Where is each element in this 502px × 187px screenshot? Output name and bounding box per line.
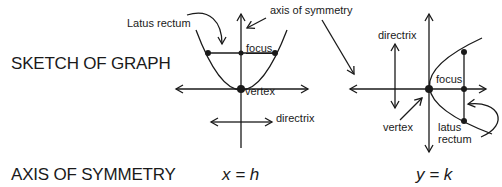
latus-rectum-pointer-arrow [468, 104, 498, 137]
latus-rectum-left-point [205, 50, 211, 56]
vertex-pointer-arrow [400, 98, 422, 120]
vertical-axis-equation: x = h [222, 165, 259, 185]
vertical-parabola-graph [176, 13, 354, 148]
parabola-curve [429, 38, 492, 134]
directrix-label: directrix [378, 29, 417, 41]
directrix-label: directrix [276, 112, 315, 124]
vertex-label: vertex [245, 85, 275, 97]
focus-label: focus [246, 42, 272, 54]
vertex-point [237, 85, 245, 93]
axis-of-symmetry-row-label: AXIS OF SYMMETRY [11, 165, 176, 185]
latus-rectum-label-line1: latus [438, 121, 461, 133]
latus-rectum-pointer-arrow [187, 13, 222, 44]
sketch-of-graph-label: SKETCH OF GRAPH [11, 54, 170, 74]
latus-rectum-label: Latus rectum [127, 17, 191, 29]
latus-rectum-label-line2: rectum [438, 133, 472, 145]
latus-rectum-top-point [461, 49, 467, 55]
horizontal-axis-equation: y = k [416, 165, 452, 185]
axis-of-symmetry-label: axis of symmetry [270, 4, 353, 16]
vertex-point [425, 85, 433, 93]
focus-point [461, 86, 467, 92]
horizontal-parabola-points [425, 49, 467, 124]
horizontal-parabola-graph [350, 14, 498, 152]
axis-of-symmetry-pointer-arrow [322, 20, 354, 74]
vertex-label: vertex [383, 121, 413, 133]
axis-of-symmetry-pointer-arrow [247, 18, 266, 28]
focus-label: focus [436, 73, 462, 85]
latus-rectum-right-point [272, 50, 278, 56]
latus-rectum-bottom-point [461, 118, 467, 124]
focus-point [239, 51, 244, 56]
